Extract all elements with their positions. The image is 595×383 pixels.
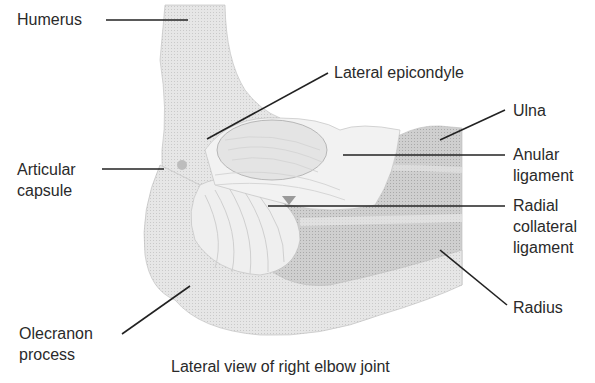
label-anular-ligament-line2: ligament [513, 165, 573, 186]
leader-ulna [440, 110, 505, 140]
label-radius: Radius [513, 297, 563, 318]
leader-olecranon [122, 286, 190, 334]
label-articular-capsule-line2: capsule [17, 180, 72, 201]
label-articular-capsule-line1: Articular [17, 159, 76, 180]
diagram-caption: Lateral view of right elbow joint [171, 358, 390, 376]
label-radial-collateral-line3: ligament [513, 237, 573, 258]
label-radial-collateral-line1: Radial [513, 195, 558, 216]
radial-head-shape [217, 120, 327, 180]
label-anular-ligament-line1: Anular [513, 144, 559, 165]
label-olecranon-line2: process [19, 344, 75, 365]
label-lateral-epicondyle: Lateral epicondyle [334, 62, 464, 83]
label-ulna: Ulna [513, 100, 546, 121]
label-olecranon-line1: Olecranon [19, 323, 93, 344]
label-humerus: Humerus [17, 9, 82, 30]
label-radial-collateral-line2: collateral [513, 216, 577, 237]
